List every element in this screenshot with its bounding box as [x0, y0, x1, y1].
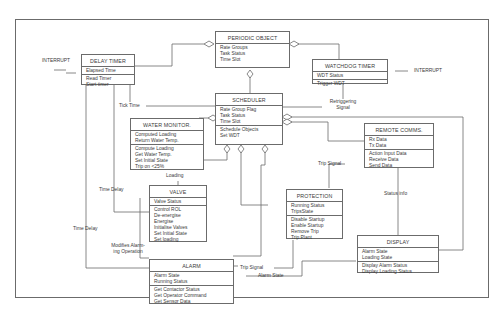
- attribute: Return Water Temp.: [135, 138, 199, 144]
- label-interrupt-right: INTERRUPT: [414, 68, 442, 74]
- operation: Trip Plant: [291, 235, 338, 241]
- attribute: Elapsed Time: [86, 68, 130, 74]
- attribute: TripsState: [291, 209, 338, 215]
- attributes-section: Rx Data Tx Data: [365, 135, 433, 149]
- attributes-section: Computed Loading Return Water Temp.: [131, 130, 203, 144]
- label-interrupt-left: INTERRUPT: [42, 58, 70, 64]
- attribute: Time Slot: [220, 119, 278, 125]
- object-delay-timer[interactable]: DELAY TIMER Elapsed Time Read Timer Star…: [81, 54, 135, 85]
- object-valve[interactable]: VALVE Valve Status Control ROL De-energi…: [149, 185, 207, 242]
- label-trip-signal-protection: Trip Signal: [318, 161, 341, 167]
- object-title: REMOTE COMMS.: [365, 124, 433, 135]
- attributes-section: Alarm State Loading State: [358, 247, 438, 261]
- operation: Send Data: [369, 163, 429, 169]
- object-periodic-object[interactable]: PERIODIC OBJECT Rate Groups Task Status …: [215, 31, 290, 68]
- operations-section: Action Input Data Receive Data Send Data: [365, 149, 433, 169]
- operations-section: Disable Startup Enable Startup Remove Tr…: [287, 215, 342, 241]
- label-line: ing Operation: [105, 249, 151, 255]
- object-water-monitor[interactable]: WATER MONITOR. Computed Loading Return W…: [130, 118, 204, 170]
- object-scheduler[interactable]: SCHEDULER Rate Group Flag Task Status Ti…: [215, 93, 283, 145]
- object-title: DELAY TIMER: [82, 55, 134, 66]
- operation: Set loading: [154, 237, 202, 243]
- label-trip-signal-alarm: Trip Signal: [240, 265, 263, 271]
- operations-section: Display Alarm Status Display Loading Sta…: [358, 261, 438, 275]
- attribute: WDT Status: [317, 73, 383, 79]
- attributes-section: WDT Status: [313, 71, 387, 79]
- attribute: Time Slot: [220, 57, 285, 63]
- attributes-section: Running Status TripsState: [287, 201, 342, 215]
- label-status-info: Status info: [384, 191, 407, 197]
- object-alarm[interactable]: ALARM Alarm State Running Status Get Con…: [149, 259, 234, 304]
- attribute: Running Status: [154, 279, 229, 285]
- label-tick-time: Tick Time: [119, 103, 140, 109]
- operations-section: Compute Loading Get Water Temp. Set Init…: [131, 144, 203, 170]
- label-loading: Loading: [166, 173, 183, 179]
- label-line: Signal: [322, 105, 364, 111]
- operation: Display Loading Status: [362, 269, 434, 275]
- object-title: WATCHDOG TIMER: [313, 60, 387, 71]
- object-title: SCHEDULER: [216, 94, 282, 105]
- operations-section: Trigger WDT: [313, 79, 387, 87]
- object-title: PROTECTION: [287, 190, 342, 201]
- object-title: WATER MONITOR.: [131, 119, 203, 130]
- attribute: Tx Data: [369, 143, 429, 149]
- label-modifies-alarming-operation: Modifies Alarm- ing Operation: [105, 243, 151, 255]
- attribute: Loading State: [362, 255, 434, 261]
- operation: Trigger WDT: [317, 81, 383, 87]
- attributes-section: Alarm State Running Status: [150, 271, 233, 285]
- label-time-delay-valve: Time Delay: [99, 187, 124, 193]
- object-watchdog-timer[interactable]: WATCHDOG TIMER WDT Status Trigger WDT: [312, 59, 388, 84]
- operations-section: Read Timer Start timer: [82, 74, 134, 88]
- operation: Start timer: [86, 82, 130, 88]
- object-title: ALARM: [150, 260, 233, 271]
- aggregation-diamond: [204, 41, 214, 47]
- operation: Set WDT: [220, 133, 278, 139]
- attribute: Valve Status: [154, 199, 202, 205]
- operations-section: Control ROL De-energise Energise Initial…: [150, 205, 206, 244]
- label-time-delay-alarm: Time Delay: [73, 226, 98, 232]
- attributes-section: Elapsed Time: [82, 66, 134, 74]
- operation: Get Sensor Data: [154, 299, 229, 305]
- object-remote-comms[interactable]: REMOTE COMMS. Rx Data Tx Data Action Inp…: [364, 123, 434, 168]
- object-protection[interactable]: PROTECTION Running Status TripsState Dis…: [286, 189, 343, 239]
- object-title: DISPLAY: [358, 236, 438, 247]
- attributes-section: Rate Group Flag Task Status Time Slot: [216, 105, 282, 125]
- label-retriggering-signal: Retriggering Signal: [322, 99, 364, 111]
- operation: Trip on <25%: [135, 164, 199, 170]
- operations-section: Schedule Objects Set WDT: [216, 125, 282, 139]
- label-alarm-state: Alarm State: [258, 273, 284, 279]
- attributes-section: Rate Groups Task Status Time Slot: [216, 43, 289, 63]
- operations-section: Get Contactor Status Get Operator Comman…: [150, 285, 233, 305]
- object-display[interactable]: DISPLAY Alarm State Loading State Displa…: [357, 235, 439, 273]
- object-title: VALVE: [150, 186, 206, 197]
- object-title: PERIODIC OBJECT: [216, 32, 289, 43]
- attributes-section: Valve Status: [150, 197, 206, 205]
